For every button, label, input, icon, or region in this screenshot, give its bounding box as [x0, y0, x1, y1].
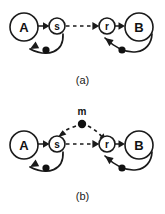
node-s-label-b: s [54, 139, 60, 150]
node-m-dot[interactable] [78, 120, 86, 128]
arrowhead-s-to-A [30, 42, 39, 49]
arrowhead-s-to-r-b [92, 140, 99, 148]
node-A-label: A [19, 20, 29, 35]
panel-a-diagram: A s r B [0, 0, 165, 74]
node-r-label-b: r [105, 139, 109, 150]
edge-m-to-r [88, 126, 103, 138]
arrowhead-r-to-B [119, 22, 126, 30]
node-B-label-b: B [134, 138, 143, 153]
node-A-label-b: A [19, 138, 29, 153]
modulatory-dot-B-to-r [118, 46, 125, 53]
modulatory-dot-s-to-A-b [42, 164, 49, 171]
arrowhead-r-to-B-b [119, 140, 126, 148]
node-s-label: s [54, 21, 60, 32]
node-m-label: m [78, 106, 87, 117]
panel-b-diagram: m A s r B [0, 100, 165, 190]
figure-container: A s r B (a) m [0, 0, 165, 214]
modulatory-dot-s-to-A [42, 46, 49, 53]
node-r-label: r [105, 21, 109, 32]
panel-b-caption: (b) [0, 190, 165, 202]
arrowhead-s-to-A-b [30, 160, 39, 167]
node-B-label: B [134, 20, 143, 35]
arrowhead-s-to-r [92, 22, 99, 30]
modulatory-dot-B-to-r-b [118, 164, 125, 171]
panel-a-caption: (a) [0, 74, 165, 86]
